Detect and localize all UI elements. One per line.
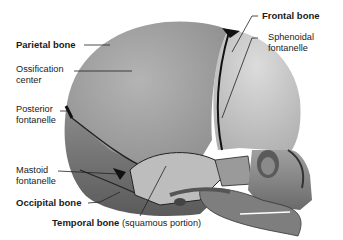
label-mastoid-fontanelle-line2: fontanelle [16,176,56,187]
label-sphenoidal-fontanelle-line1: Sphenoidal [268,32,314,43]
label-parietal-bone: Parietal bone [16,39,76,50]
label-temporal-bone: Temporal bone (squamous portion) [52,217,201,229]
fetal-skull-diagram: Parietal bone Ossification center Poster… [0,0,343,240]
label-ossification-center-line1: Ossification [16,64,64,75]
label-ossification-center-line2: center [16,75,42,86]
label-posterior-fontanelle-line1: Posterior [16,104,53,115]
label-occipital-bone: Occipital bone [16,197,81,208]
label-temporal-bone-name: Temporal bone [52,217,119,228]
label-temporal-bone-note: (squamous portion) [122,218,201,228]
label-mastoid-fontanelle-line1: Mastoid [16,165,48,176]
label-posterior-fontanelle-line2: fontanelle [16,115,56,126]
label-sphenoidal-fontanelle-line2: fontanelle [268,43,308,54]
label-frontal-bone: Frontal bone [262,10,320,21]
